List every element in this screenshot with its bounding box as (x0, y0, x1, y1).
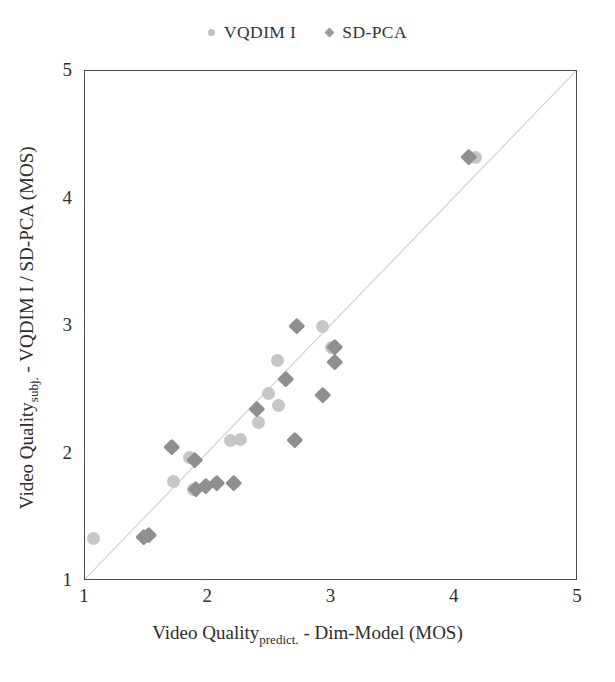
x-tick-label: 3 (326, 585, 336, 607)
plot-frame (84, 70, 577, 580)
legend-diamond-marker-icon (325, 28, 335, 38)
y-axis-title: Video Qualitysubj. - VQDIM I / SD-PCA (M… (16, 73, 42, 583)
y-tick-label: 3 (63, 314, 73, 336)
x-axis-title-subscript: predict. (259, 632, 298, 647)
y-axis-title-main: Video Quality (16, 402, 37, 509)
y-axis-title-rest: - VQDIM I / SD-PCA (MOS) (16, 146, 37, 372)
x-tick-label: 1 (79, 585, 89, 607)
x-tick-label: 2 (203, 585, 213, 607)
x-axis-title-main: Video Quality (152, 622, 259, 643)
x-tick-label: 5 (572, 585, 582, 607)
legend-entry-sdpca: SD-PCA (326, 22, 407, 43)
plot-area (85, 71, 576, 579)
legend-label-sdpca: SD-PCA (342, 22, 407, 43)
y-tick-label: 2 (63, 442, 73, 464)
x-axis-title-rest: - Dim-Model (MOS) (303, 622, 462, 643)
chart-legend: VQDIM I SD-PCA (0, 22, 615, 43)
legend-label-vqdim: VQDIM I (224, 22, 296, 43)
identity-reference-line (85, 71, 576, 579)
x-axis-title: Video Qualitypredict. - Dim-Model (MOS) (0, 622, 615, 648)
x-tick-label: 4 (449, 585, 459, 607)
y-tick-label: 5 (63, 59, 73, 81)
y-axis-title-subscript: subj. (26, 377, 41, 402)
legend-circle-marker-icon (208, 29, 215, 36)
y-tick-label: 1 (63, 569, 73, 591)
legend-entry-vqdim: VQDIM I (208, 22, 296, 43)
scatter-plot-figure: VQDIM I SD-PCA 12345 12345 Video Quality… (0, 0, 615, 682)
y-tick-label: 4 (63, 187, 73, 209)
